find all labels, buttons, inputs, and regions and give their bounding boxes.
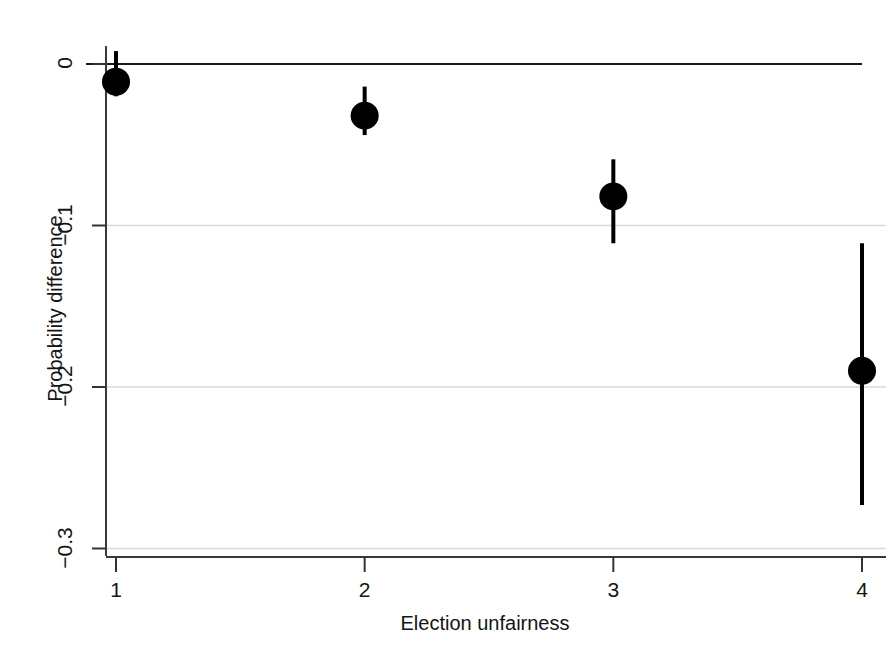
x-axis-title: Election unfairness bbox=[105, 612, 865, 635]
data-point bbox=[102, 68, 130, 96]
y-tick-label: −0.3 bbox=[53, 523, 77, 573]
data-point bbox=[848, 357, 876, 385]
data-point bbox=[351, 102, 379, 130]
plot-area bbox=[0, 0, 890, 661]
x-tick-label: 2 bbox=[340, 578, 390, 602]
x-tick-label: 4 bbox=[837, 578, 887, 602]
plot-background bbox=[0, 0, 890, 661]
x-tick-label: 1 bbox=[91, 578, 141, 602]
data-point bbox=[599, 182, 627, 210]
chart-figure: 0 −0.1 −0.2 −0.3 1 2 3 4 Probability dif… bbox=[0, 0, 890, 661]
x-tick-label: 3 bbox=[588, 578, 638, 602]
y-axis-title: Probability difference bbox=[44, 159, 67, 459]
y-tick-label: 0 bbox=[53, 38, 77, 88]
